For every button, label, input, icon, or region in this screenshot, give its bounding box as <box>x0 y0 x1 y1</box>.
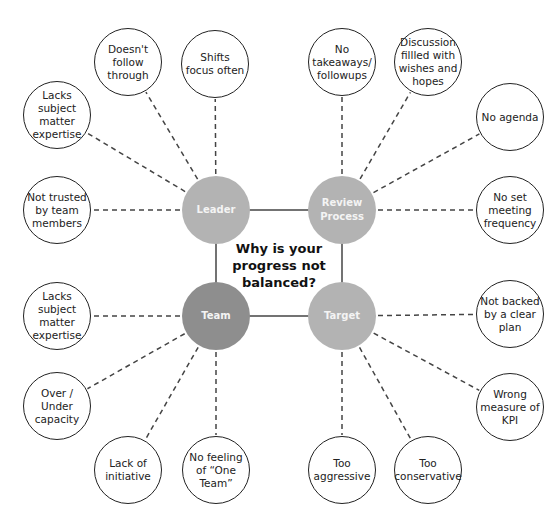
cause-label: Discussion fillled with wishes and hopes <box>398 36 458 88</box>
cause-node: Over / Under capacity <box>23 372 91 440</box>
cause-label: No feeling of “One Team” <box>186 451 246 490</box>
cause-node: Too aggressive <box>308 436 376 504</box>
hub-label: Leader <box>191 203 241 217</box>
hub-leader: Leader <box>182 176 250 244</box>
cause-label: Lacks subject matter expertise <box>27 89 87 141</box>
cause-label: Not trusted by team members <box>27 191 87 230</box>
cause-node: No set meeting frequency <box>476 176 544 244</box>
cause-label: Lacks subject matter expertise <box>27 290 87 342</box>
cause-label: Doesn't follow through <box>98 43 158 82</box>
cause-label: Wrong measure of KPI <box>480 388 540 427</box>
hub-team: Team <box>182 282 250 350</box>
cause-label: Shifts focus often <box>185 51 245 77</box>
cause-label: No agenda <box>482 111 539 124</box>
cause-label: Too aggressive <box>312 457 372 483</box>
cause-node: Wrong measure of KPI <box>476 373 544 441</box>
cause-node: Lacks subject matter expertise <box>23 282 91 350</box>
cause-label: No set meeting frequency <box>480 191 540 230</box>
cause-node: Not backed by a clear plan <box>476 280 544 348</box>
hub-label: Target <box>317 309 367 323</box>
cause-label: Too conservative <box>394 457 461 483</box>
cause-node: Lacks subject matter expertise <box>23 81 91 149</box>
cause-node: No agenda <box>476 83 544 151</box>
hub-target: Target <box>308 282 376 350</box>
hub-label: Team <box>191 309 241 323</box>
cause-label: Over / Under capacity <box>27 387 87 426</box>
cause-node: No takeaways/ followups <box>308 28 376 96</box>
cause-node: Lack of initiative <box>94 436 162 504</box>
central-question: Why is your progress not balanced? <box>229 240 329 291</box>
hub-label: Review Process <box>317 196 367 224</box>
cause-node: Doesn't follow through <box>94 28 162 96</box>
cause-node: Shifts focus often <box>181 30 249 98</box>
cause-label: No takeaways/ followups <box>312 43 372 82</box>
cause-node: Not trusted by team members <box>23 176 91 244</box>
cause-node: Too conservative <box>394 436 462 504</box>
cause-label: Lack of initiative <box>98 457 158 483</box>
cause-node: Discussion fillled with wishes and hopes <box>394 28 462 96</box>
hub-review: Review Process <box>308 176 376 244</box>
cause-node: No feeling of “One Team” <box>182 436 250 504</box>
cause-label: Not backed by a clear plan <box>480 295 540 334</box>
